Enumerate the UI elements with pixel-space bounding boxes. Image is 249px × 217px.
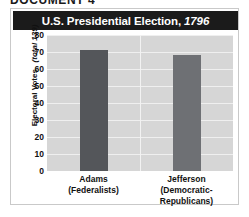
category-divider (140, 35, 141, 171)
x-axis-label-jefferson: Jefferson(Democratic-Republicans) (140, 174, 233, 207)
x-axis-label-name: Jefferson (140, 174, 233, 185)
chart-title-bar: U.S. Presidential Election, 1796 (13, 11, 238, 30)
y-tick-label-80: 80 (25, 31, 44, 40)
x-axis-label-adams: Adams(Federalists) (47, 174, 140, 207)
plot-area (47, 35, 233, 171)
x-axis-label-party: (Democratic-Republicans) (140, 185, 233, 207)
bar-adams (80, 50, 108, 171)
x-axis-label-party: (Federalists) (47, 185, 140, 196)
y-tick-label-30: 30 (25, 116, 44, 125)
plot-wrapper: 80706050403020100 (47, 35, 233, 171)
y-tick-label-50: 50 (25, 82, 44, 91)
chart-card: U.S. Presidential Election, 1796 Elector… (10, 8, 239, 205)
y-tick-label-40: 40 (25, 99, 44, 108)
document-header: DOCUMENT 4 (10, 0, 95, 5)
chart-title-year: 1796 (184, 15, 209, 27)
y-tick-label-70: 70 (25, 48, 44, 57)
y-tick-label-60: 60 (25, 65, 44, 74)
y-tick-label-10: 10 (25, 150, 44, 159)
y-tick-label-20: 20 (25, 133, 44, 142)
y-axis-tick-labels: 80706050403020100 (25, 35, 44, 171)
x-axis-labels: Adams(Federalists)Jefferson(Democratic-R… (47, 174, 233, 207)
x-axis-label-name: Adams (47, 174, 140, 185)
bar-jefferson (173, 55, 201, 171)
chart-title: U.S. Presidential Election, (42, 15, 181, 27)
y-tick-label-0: 0 (25, 167, 44, 176)
